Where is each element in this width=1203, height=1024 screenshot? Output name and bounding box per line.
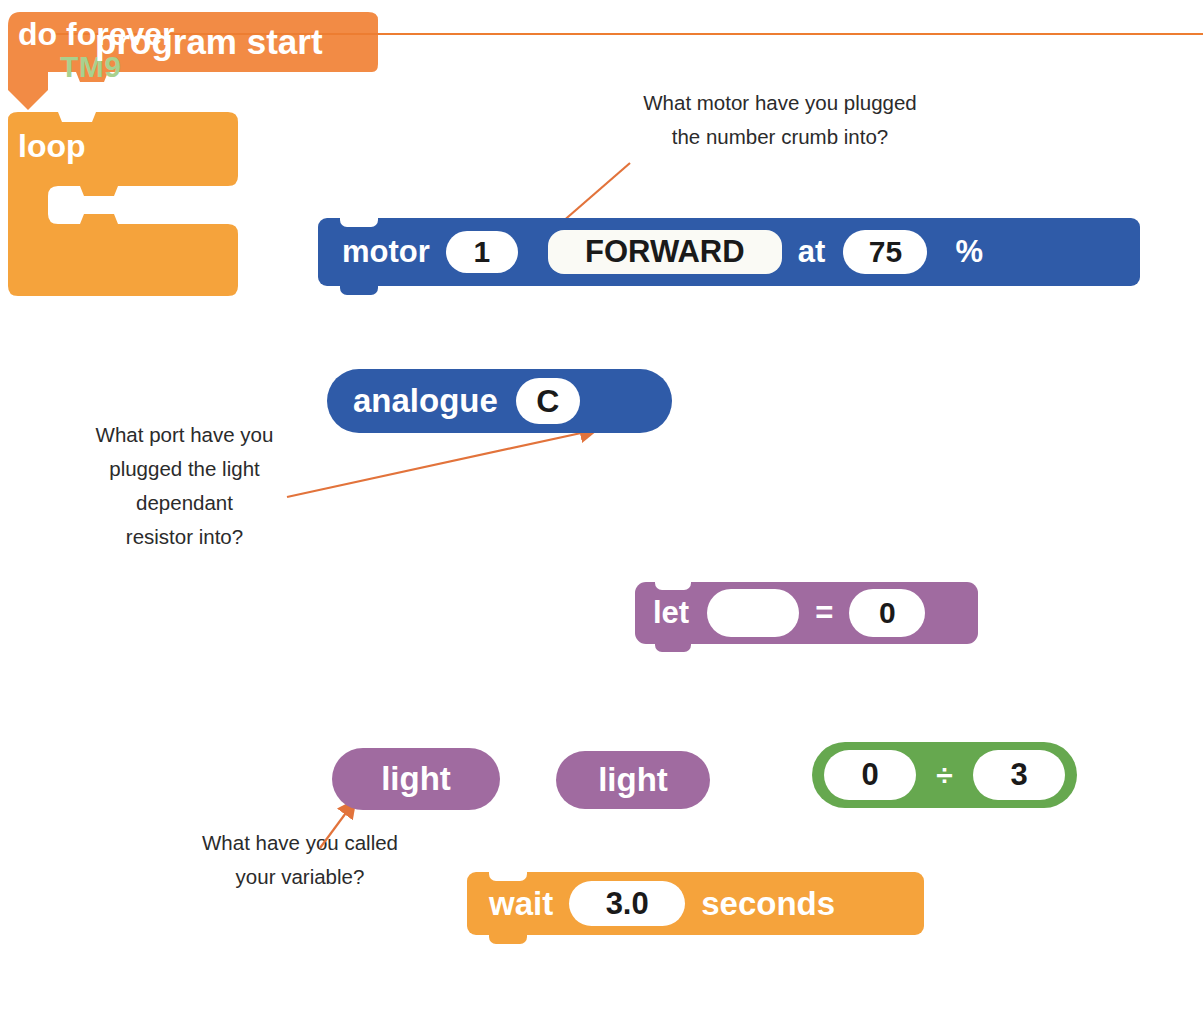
light-label: light bbox=[598, 761, 668, 799]
annotation-line: resistor into? bbox=[62, 520, 307, 554]
block-wait[interactable]: wait 3.0 seconds bbox=[467, 872, 924, 935]
block-analogue[interactable]: analogue C bbox=[327, 369, 672, 433]
annotation-line: What motor have you plugged bbox=[606, 86, 954, 120]
light-variable-block-2[interactable]: light bbox=[556, 751, 710, 809]
annotation-line: dependant bbox=[62, 486, 307, 520]
motor-speed-input[interactable]: 75 bbox=[843, 230, 927, 274]
motor-label: motor bbox=[342, 234, 430, 270]
light-variable-block[interactable]: light bbox=[332, 748, 500, 810]
do-forever-bottom-label: loop bbox=[18, 128, 86, 165]
block-motor[interactable]: motor 1 FORWARD at 75 % bbox=[318, 218, 1140, 286]
divide-left-input[interactable]: 0 bbox=[824, 750, 916, 800]
annotation-line: What have you called bbox=[150, 826, 450, 860]
annotation-motor-question: What motor have you plugged the number c… bbox=[606, 86, 954, 154]
annotation-line: plugged the light bbox=[62, 452, 307, 486]
wait-seconds-input[interactable]: 3.0 bbox=[569, 881, 685, 926]
annotation-variable-question: What have you called your variable? bbox=[150, 826, 450, 894]
wait-unit-label: seconds bbox=[701, 885, 835, 923]
annotation-line: the number crumb into? bbox=[606, 120, 954, 154]
motor-direction-input[interactable]: FORWARD bbox=[548, 230, 782, 274]
annotation-line: What port have you bbox=[62, 418, 307, 452]
arrow-to-analogue-port bbox=[287, 430, 595, 497]
motor-percent-label: % bbox=[955, 234, 983, 270]
let-variable-input[interactable] bbox=[707, 589, 799, 637]
divide-right-input[interactable]: 3 bbox=[973, 750, 1065, 800]
analogue-label: analogue bbox=[353, 382, 498, 420]
block-divide[interactable]: 0 ÷ 3 bbox=[812, 742, 1077, 808]
do-forever-top-label: do forever bbox=[18, 16, 174, 53]
block-do-forever[interactable]: do forever loop bbox=[0, 110, 241, 299]
motor-at-label: at bbox=[798, 234, 826, 270]
block-let[interactable]: let = 0 bbox=[635, 582, 978, 644]
motor-number-input[interactable]: 1 bbox=[446, 231, 518, 273]
annotation-line: your variable? bbox=[150, 860, 450, 894]
wait-label: wait bbox=[489, 885, 553, 923]
let-label: let bbox=[653, 595, 689, 631]
analogue-port-input[interactable]: C bbox=[516, 378, 580, 424]
light-label: light bbox=[381, 760, 451, 798]
let-equals-label: = bbox=[815, 595, 833, 631]
divide-operator-label: ÷ bbox=[936, 758, 952, 792]
let-value-input[interactable]: 0 bbox=[849, 589, 925, 637]
annotation-port-question: What port have you plugged the light dep… bbox=[62, 418, 307, 554]
